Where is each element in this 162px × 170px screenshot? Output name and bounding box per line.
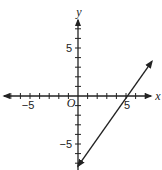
series-line-0 xyxy=(78,61,152,166)
x-axis-label: x xyxy=(154,89,161,103)
y-tick-label-neg5: −5 xyxy=(59,138,72,150)
origin-label: O xyxy=(67,96,76,110)
coordinate-plane: −5 5 5 −5 x y O xyxy=(0,0,162,170)
y-tick-label-5: 5 xyxy=(66,42,72,54)
x-tick-label-neg5: −5 xyxy=(22,99,35,111)
y-axis-label: y xyxy=(75,5,82,19)
